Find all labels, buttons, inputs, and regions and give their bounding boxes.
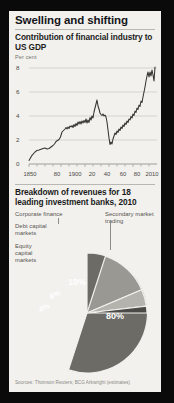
line-series-path [29,67,155,160]
xtick-1880: 80 [54,171,61,177]
xtick-1920: 20 [89,171,96,177]
xtick-1960: 60 [120,171,127,177]
xtick-2010: 2010 [145,171,158,177]
xtick-1850: 1850 [23,171,36,177]
page-title: Swelling and shifting [15,14,157,27]
legend-label-debt-capital-markets: Debt capital markets [15,223,59,237]
pie-chart-svg: 80% 10% 6% 4% [23,249,151,377]
xtick-1940: 40 [104,171,111,177]
line-chart-svg: 8 6 4 2 0 [15,60,157,172]
pie-value-equity-capital-markets: 4% [37,301,51,314]
pie-value-debt-capital-markets: 6% [48,288,62,301]
pie-chart: 80% 10% 6% 4% [23,249,151,377]
svg-text:4: 4 [16,112,20,119]
pie-value-corporate-finance: 10% [68,277,86,287]
xtick-1900: 1900 [68,171,81,177]
x-axis-tick-labels: 1850 80 1900 20 40 60 80 2010 [15,171,157,183]
svg-text:6: 6 [16,88,20,95]
legend-label-corporate-finance: Corporate finance [15,211,79,218]
infographic-frame: Swelling and shifting Contribution of fi… [0,0,174,403]
line-chart: 8 6 4 2 0 [15,60,157,172]
x-axis-ticks [29,164,149,167]
infographic-card: Swelling and shifting Contribution of fi… [9,11,161,392]
leader-line-secondary [110,220,111,250]
svg-text:0: 0 [16,160,20,167]
pie-value-secondary-market-trading: 80% [106,311,124,321]
xtick-1980: 80 [134,171,141,177]
chart2-subtitle: Breakdown of revenues for 18 leading inv… [15,187,157,207]
leader-line-corporate [58,218,59,224]
legend-label-secondary-market-trading: Secondary market trading [105,211,155,225]
svg-text:8: 8 [16,64,20,71]
source-note: Sources: Thomson Reuters; BCG Arkwright … [15,380,157,385]
svg-text:2: 2 [16,136,20,143]
title-divider [15,29,155,30]
y-axis-tick-labels: 8 6 4 2 0 [16,64,20,167]
chart1-subtitle: Contribution of financial industry to US… [15,32,157,52]
section-divider [15,184,155,185]
